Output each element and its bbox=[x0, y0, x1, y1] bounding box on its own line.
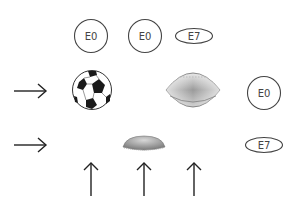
right-arrow-icon bbox=[14, 138, 46, 152]
american-football-icon bbox=[166, 73, 220, 107]
row-label-1-text: E0 bbox=[258, 88, 271, 99]
column-label-1-text: E0 bbox=[85, 31, 98, 42]
up-arrow-icon bbox=[187, 163, 201, 196]
column-label-1: E0 bbox=[75, 20, 108, 53]
flattened-ball-icon bbox=[123, 136, 165, 150]
up-arrow-icon bbox=[137, 163, 151, 196]
puzzle-canvas: E0 E0 E7 E0 bbox=[0, 0, 295, 213]
column-label-3-text: E7 bbox=[188, 31, 201, 42]
column-label-2-text: E0 bbox=[139, 31, 152, 42]
row-label-1: E0 bbox=[248, 77, 281, 110]
soccer-ball-icon bbox=[73, 71, 112, 110]
row-label-2-text: E7 bbox=[258, 140, 271, 151]
column-label-2: E0 bbox=[129, 20, 162, 53]
up-arrow-icon bbox=[84, 163, 98, 196]
row-label-2: E7 bbox=[246, 138, 283, 153]
right-arrow-icon bbox=[14, 84, 46, 98]
column-label-3: E7 bbox=[176, 29, 213, 44]
